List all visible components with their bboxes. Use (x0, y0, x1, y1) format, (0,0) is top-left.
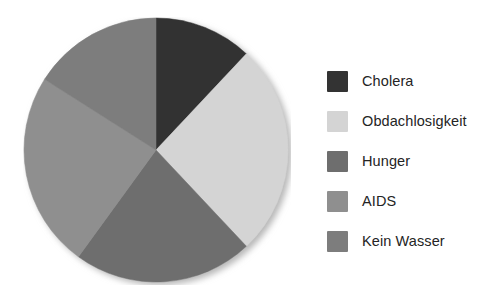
legend-item-label: Obdachlosigkeit (362, 114, 467, 129)
legend-item-kein-wasser[interactable]: Kein Wasser (327, 221, 497, 261)
legend-item-label: Hunger (362, 154, 410, 169)
legend-swatch-icon (327, 151, 348, 172)
pie-chart-figure: Cholera Obdachlosigkeit Hunger AIDS Kein… (0, 0, 503, 301)
legend-item-obdachlosigkeit[interactable]: Obdachlosigkeit (327, 101, 497, 141)
legend-item-aids[interactable]: AIDS (327, 181, 497, 221)
legend-swatch-icon (327, 231, 348, 252)
chart-legend: Cholera Obdachlosigkeit Hunger AIDS Kein… (327, 61, 497, 261)
legend-swatch-icon (327, 71, 348, 92)
pie-slice-group (24, 18, 288, 282)
legend-item-label: AIDS (362, 194, 396, 209)
pie-chart (23, 17, 291, 285)
legend-item-hunger[interactable]: Hunger (327, 141, 497, 181)
legend-item-label: Cholera (362, 74, 413, 89)
legend-item-cholera[interactable]: Cholera (327, 61, 497, 101)
legend-swatch-icon (327, 111, 348, 132)
pie-chart-svg (23, 17, 291, 285)
legend-swatch-icon (327, 191, 348, 212)
legend-item-label: Kein Wasser (362, 234, 445, 249)
